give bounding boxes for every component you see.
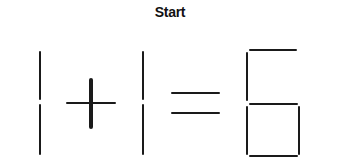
digit-six xyxy=(247,50,299,156)
matchstick-equation xyxy=(0,0,348,161)
plus-sign xyxy=(67,80,115,127)
equals-sign xyxy=(172,93,219,113)
